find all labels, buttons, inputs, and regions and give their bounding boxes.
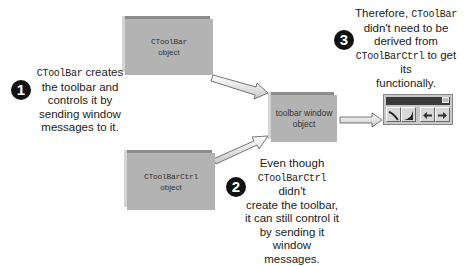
note-3-line2: didn't need to be bbox=[350, 22, 462, 36]
note-2-line3: create the toolbar, bbox=[244, 199, 340, 213]
note-1-line2: the toolbar and bbox=[36, 81, 124, 95]
note-1-line3: controls it by bbox=[36, 94, 124, 108]
note-1-line1-text: creates bbox=[82, 66, 123, 78]
bullet-1: 1 bbox=[11, 80, 31, 100]
close-icon[interactable] bbox=[442, 97, 449, 103]
note-3: Therefore, CToolBar didn't need to be de… bbox=[350, 7, 462, 90]
note-3-code: CToolBar bbox=[411, 9, 457, 20]
note-3-line1-text: Therefore, bbox=[355, 7, 411, 19]
note-2-line1: Even though bbox=[244, 157, 340, 171]
ctoolbar-class-name: CToolBar bbox=[151, 36, 187, 47]
ctoolbarctrl-class-name: CToolBarCtrl bbox=[144, 171, 198, 182]
arrow-ctoolbar-to-window bbox=[211, 75, 268, 99]
toolbar-title-bar bbox=[386, 97, 450, 105]
note-1-code: CToolBar bbox=[37, 68, 83, 79]
ctoolbarctrl-object-box: CToolBarCtrl object bbox=[127, 153, 215, 210]
note-2-line5: by sending it bbox=[244, 226, 340, 240]
curve-down-icon[interactable] bbox=[386, 107, 401, 122]
ctoolbar-object-label: object bbox=[158, 47, 179, 58]
toolbar-widget bbox=[383, 94, 453, 125]
bullet-2: 2 bbox=[226, 177, 246, 197]
note-1-line4: sending window bbox=[36, 108, 124, 122]
arrow-right-icon[interactable] bbox=[435, 107, 450, 122]
note-3-line3: derived from bbox=[350, 35, 462, 49]
curve-up-icon[interactable] bbox=[401, 107, 416, 122]
toolbar-window-label-line1: toolbar window bbox=[276, 108, 333, 119]
note-2-line4: it can still control it bbox=[244, 212, 340, 226]
note-2: Even though CToolBarCtrl didn't create t… bbox=[244, 157, 340, 266]
arrow-left-icon[interactable] bbox=[420, 107, 435, 122]
ctoolbarctrl-object-label: object bbox=[160, 182, 181, 193]
arrow-window-to-toolbar bbox=[340, 113, 382, 127]
note-2-line2-text: didn't bbox=[278, 185, 305, 197]
ctoolbar-object-box: CToolBar object bbox=[125, 19, 213, 75]
note-1: CToolBar creates the toolbar and control… bbox=[36, 66, 124, 135]
toolbar-window-label-line2: object bbox=[293, 119, 316, 130]
note-2-line6: window messages. bbox=[244, 239, 340, 266]
note-1-line5: messages to it. bbox=[36, 121, 124, 135]
note-3-line5: functionally. bbox=[350, 77, 462, 91]
note-3-code2: CToolBarCtrl bbox=[356, 51, 424, 62]
note-2-code: CToolBarCtrl bbox=[258, 173, 326, 184]
toolbar-window-object-box: toolbar window object bbox=[271, 95, 337, 142]
